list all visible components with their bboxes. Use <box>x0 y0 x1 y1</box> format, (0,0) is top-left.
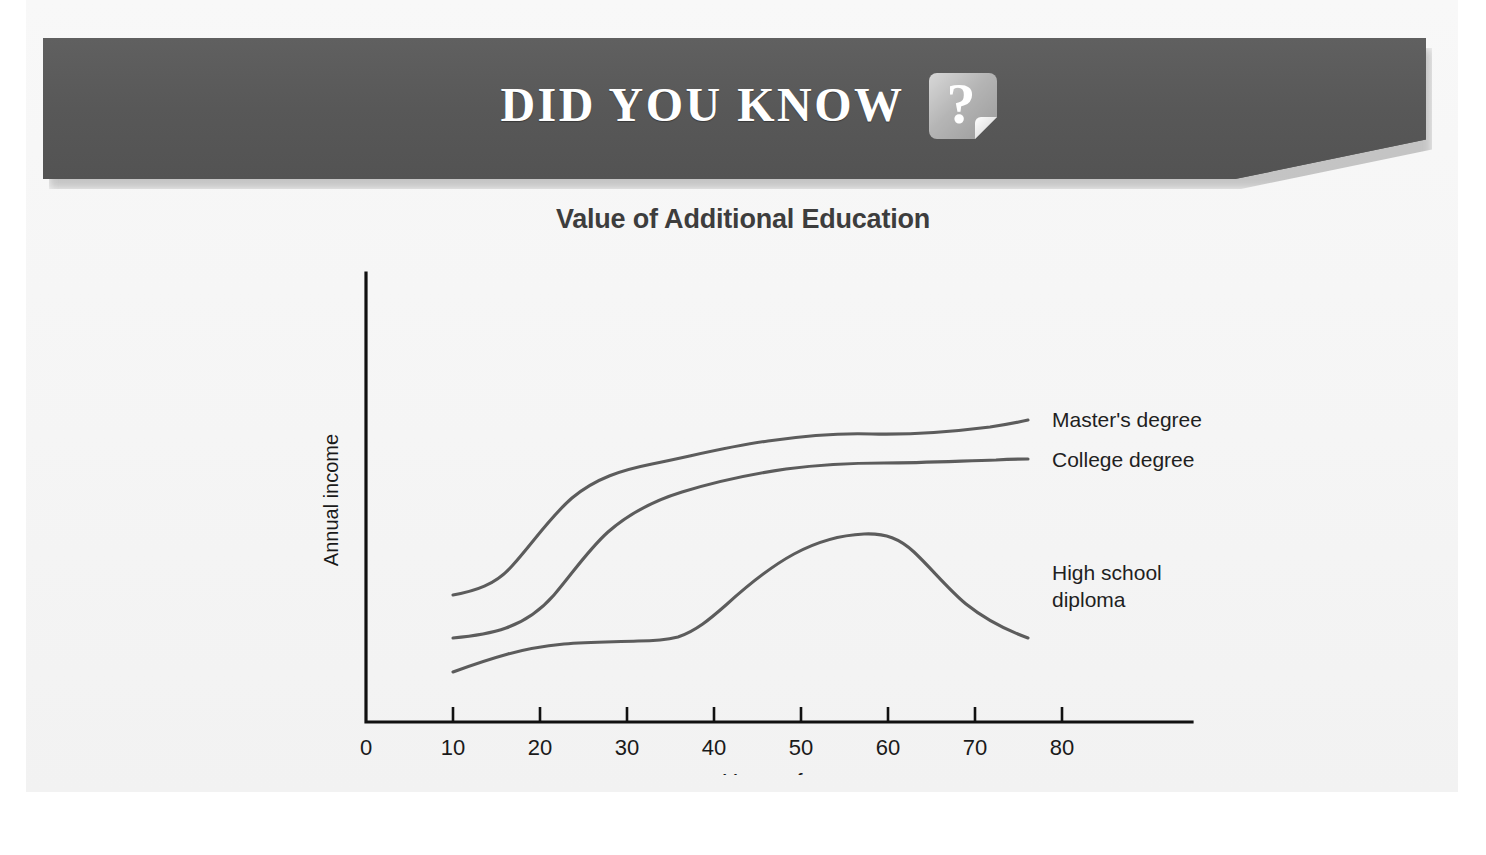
series-label-high-school-diploma-line2: diploma <box>1052 588 1126 611</box>
x-tick-label: 50 <box>789 735 813 760</box>
question-mark-document-icon: ? <box>927 69 999 141</box>
x-axis-ticks <box>453 707 1062 722</box>
x-tick-label: 80 <box>1050 735 1074 760</box>
chart-title: Value of Additional Education <box>0 204 1486 235</box>
x-tick-label: 20 <box>528 735 552 760</box>
series-label-high-school-diploma-line1: High school <box>1052 561 1162 584</box>
line-chart: 0 10 20 30 40 50 60 70 80 Years of age A… <box>300 255 1260 775</box>
did-you-know-banner: DID YOU KNOW <box>43 38 1426 179</box>
banner-title: DID YOU KNOW <box>500 77 904 132</box>
x-tick-label: 70 <box>963 735 987 760</box>
x-axis-title: Years of age <box>723 769 846 775</box>
series-labels: Master's degree College degree High scho… <box>1052 408 1202 611</box>
banner-ribbon: DID YOU KNOW <box>43 38 1426 179</box>
chart-series <box>453 420 1028 672</box>
chart-axes: 0 10 20 30 40 50 60 70 80 Years of age A… <box>320 273 1192 775</box>
banner-content: DID YOU KNOW <box>500 69 998 141</box>
series-line-masters-degree <box>453 420 1028 595</box>
x-tick-label: 60 <box>876 735 900 760</box>
x-tick-label: 40 <box>702 735 726 760</box>
axis-lines <box>366 273 1192 722</box>
x-tick-label: 30 <box>615 735 639 760</box>
x-tick-label: 0 <box>360 735 372 760</box>
chart-svg: 0 10 20 30 40 50 60 70 80 Years of age A… <box>300 255 1260 775</box>
series-label-college-degree: College degree <box>1052 448 1194 471</box>
x-tick-label: 10 <box>441 735 465 760</box>
series-line-high-school-diploma <box>453 534 1028 672</box>
page-root: DID YOU KNOW <box>0 0 1486 855</box>
x-axis-tick-labels: 0 10 20 30 40 50 60 70 80 <box>360 735 1074 760</box>
series-label-masters-degree: Master's degree <box>1052 408 1202 431</box>
series-line-college-degree <box>453 459 1028 638</box>
svg-text:?: ? <box>946 71 975 136</box>
y-axis-title: Annual income <box>320 434 342 566</box>
